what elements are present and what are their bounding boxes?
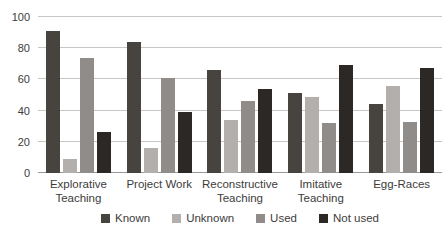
bar-group-reconstructive-teaching [200,17,281,173]
legend-item-used: Used [256,213,297,225]
bar-group-imitative-teaching [280,17,361,173]
x-category-label-egg-races: Egg-Races [361,177,442,206]
x-category-label-project-work: Project Work [119,177,200,206]
bar-not-used [97,132,111,173]
x-category-label-explorative-teaching: Explorative Teaching [38,177,119,206]
bar-not-used [178,112,192,173]
y-tick-label: 20 [18,136,30,147]
bar-known [288,93,302,173]
y-tick-label: 0 [24,168,30,179]
bar-unknown [386,86,400,173]
bar-unknown [144,148,158,173]
legend-label-not-used: Not used [333,213,379,225]
bar-group-explorative-teaching [38,17,119,173]
y-tick-label: 80 [18,43,30,54]
y-tick-label: 60 [18,74,30,85]
bar-unknown [63,159,77,173]
legend-swatch-used [256,214,265,223]
legend-swatch-known [101,214,110,223]
bar-used [403,122,417,173]
bar-known [369,104,383,173]
bar-groups [38,17,442,173]
legend-label-known: Known [115,213,150,225]
bar-used [161,78,175,173]
bar-unknown [224,120,238,173]
legend-label-unknown: Unknown [186,213,234,225]
bar-known [207,70,221,173]
bar-used [80,58,94,173]
legend-item-known: Known [101,213,150,225]
legend-swatch-not-used [319,214,328,223]
x-axis-labels: Explorative TeachingProject WorkReconstr… [38,177,442,206]
legend-item-unknown: Unknown [172,213,234,225]
bar-not-used [258,89,272,173]
legend-item-not-used: Not used [319,213,379,225]
bar-known [127,42,141,173]
plot-area [38,17,442,173]
bar-known [46,31,60,173]
y-tick-label: 100 [12,12,30,23]
bar-not-used [339,65,353,173]
bar-group-egg-races [361,17,442,173]
legend: KnownUnknownUsedNot used [38,213,442,225]
bar-chart: 020406080100 Explorative TeachingProject… [0,0,446,237]
bar-not-used [420,68,434,173]
y-axis: 020406080100 [0,17,33,173]
legend-label-used: Used [270,213,297,225]
legend-swatch-unknown [172,214,181,223]
y-tick-label: 40 [18,105,30,116]
x-category-label-imitative-teaching: Imitative Teaching [280,177,361,206]
bar-unknown [305,97,319,173]
bar-group-project-work [119,17,200,173]
bar-used [241,101,255,173]
bar-used [322,123,336,173]
x-category-label-reconstructive-teaching: Reconstructive Teaching [200,177,281,206]
